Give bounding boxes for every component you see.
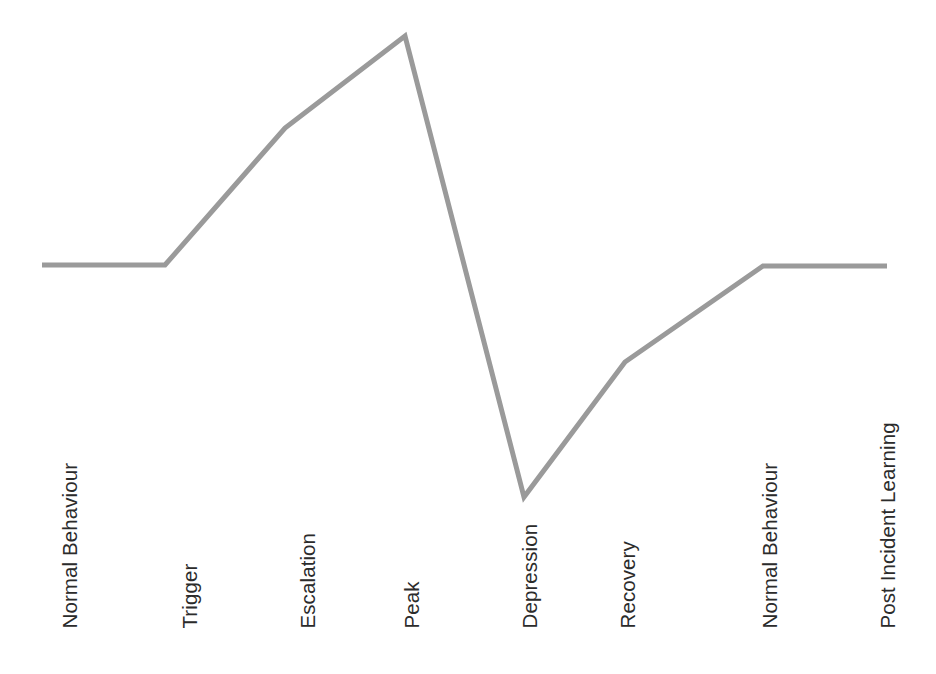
stage-label-5: Recovery xyxy=(618,541,639,628)
stage-label-4: Depression xyxy=(520,523,541,628)
stage-label-group: Normal BehaviourTriggerEscalationPeakDep… xyxy=(0,0,936,674)
stage-label-1: Trigger xyxy=(180,563,201,628)
incident-behaviour-curve-figure: Normal BehaviourTriggerEscalationPeakDep… xyxy=(0,0,936,674)
stage-label-7: Post Incident Learning xyxy=(878,422,899,628)
stage-label-3: Peak xyxy=(402,581,423,628)
stage-label-2: Escalation xyxy=(298,532,319,628)
stage-label-6: Normal Behaviour xyxy=(760,462,781,628)
stage-label-0: Normal Behaviour xyxy=(60,462,81,628)
